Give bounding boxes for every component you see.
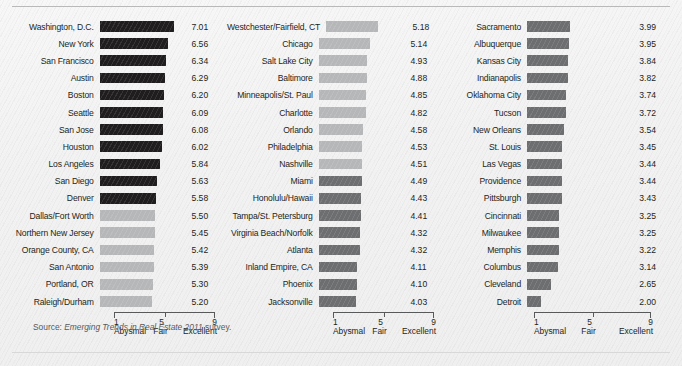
bar-value-label: 4.32 <box>403 245 443 255</box>
bar-row: Houston6.02 <box>8 138 224 155</box>
bar-row: Phoenix4.10 <box>227 276 443 293</box>
chart-panel-0: Washington, D.C.7.01New York6.56San Fran… <box>8 18 224 340</box>
bar <box>319 210 361 221</box>
bar-category-label: San Jose <box>8 125 100 135</box>
bar-row: Raleigh/Durham5.20 <box>8 293 224 310</box>
bar <box>100 55 166 66</box>
bar-track <box>100 18 185 35</box>
bar-category-label: Albuquerque <box>446 39 527 49</box>
bar-category-label: New York <box>8 39 100 49</box>
bar <box>319 193 361 204</box>
bar-row: Dallas/Fort Worth5.50 <box>8 207 224 224</box>
chart-figure: Washington, D.C.7.01New York6.56San Fran… <box>0 0 682 366</box>
bar-row: Virginia Beach/Norfolk4.32 <box>227 224 443 241</box>
bar-category-label: Detroit <box>446 297 527 307</box>
bar-row: St. Louis3.45 <box>446 138 674 155</box>
bar-row: Oklahoma City3.74 <box>446 87 674 104</box>
bar-value-label: 5.58 <box>184 193 224 203</box>
bar-value-label: 3.54 <box>632 125 674 135</box>
bar <box>527 38 569 49</box>
bar-value-label: 3.82 <box>632 73 674 83</box>
bar-value-label: 4.32 <box>403 228 443 238</box>
bar-track <box>527 173 632 190</box>
bar-value-label: 3.99 <box>632 22 674 32</box>
axis-tick-words: Abysmal Fair Excellent <box>534 327 649 336</box>
bar-track <box>319 259 404 276</box>
bar-track <box>326 18 405 35</box>
bar-row: Seattle6.09 <box>8 104 224 121</box>
axis-tick-word: Abysmal <box>333 327 365 336</box>
bar-value-label: 6.29 <box>184 73 224 83</box>
bar-category-label: Seattle <box>8 108 100 118</box>
bar-track <box>527 224 632 241</box>
bar-track <box>100 87 185 104</box>
bar-row: Inland Empire, CA4.11 <box>227 259 443 276</box>
bar-value-label: 3.72 <box>632 108 674 118</box>
bar-category-label: Dallas/Fort Worth <box>8 211 100 221</box>
axis-1: 1 5 9 Abysmal Fair Excellent <box>227 312 443 340</box>
bar-category-label: Phoenix <box>227 279 319 289</box>
bar <box>100 245 155 256</box>
bar-track <box>100 259 185 276</box>
bar-track <box>527 207 632 224</box>
bar-row: Boston6.20 <box>8 87 224 104</box>
axis-2: 1 5 9 Abysmal Fair Excellent <box>446 312 674 340</box>
bar-row: Miami4.49 <box>227 173 443 190</box>
bar <box>319 124 363 135</box>
bar-value-label: 6.08 <box>184 125 224 135</box>
bar-category-label: Inland Empire, CA <box>227 262 319 272</box>
bar-value-label: 3.74 <box>632 90 674 100</box>
bar-row: Orlando4.58 <box>227 121 443 138</box>
bar <box>527 176 562 187</box>
axis-tick-words: Abysmal Fair Excellent <box>333 327 432 336</box>
bar-value-label: 5.30 <box>184 279 224 289</box>
bar-row: Cincinnati3.25 <box>446 207 674 224</box>
axis-tick-word: Excellent <box>402 327 436 336</box>
bar <box>100 262 154 273</box>
bar-row: New Orleans3.54 <box>446 121 674 138</box>
bar-rows-1: Westchester/Fairfield, CT5.18Chicago5.14… <box>227 18 443 310</box>
source-suffix: survey. <box>203 322 232 332</box>
chart-panel-2: Sacramento3.99Albuquerque3.95Kansas City… <box>446 18 674 340</box>
bar-track <box>527 104 632 121</box>
bar-track <box>527 241 632 258</box>
bar-track <box>100 293 185 310</box>
bar-value-label: 5.14 <box>403 39 443 49</box>
bar-value-label: 7.01 <box>184 22 224 32</box>
bar-row: Cleveland2.65 <box>446 276 674 293</box>
bar-category-label: Milwaukee <box>446 228 527 238</box>
bar-row: Tucson3.72 <box>446 104 674 121</box>
bar-track <box>319 52 404 69</box>
bar-category-label: Providence <box>446 176 527 186</box>
bar <box>319 296 356 307</box>
bar-track <box>100 52 185 69</box>
bar <box>319 73 367 84</box>
bar-track <box>100 173 185 190</box>
bar-track <box>527 156 632 173</box>
source-title: Emerging Trends in Real Estate 2011 <box>64 322 202 332</box>
bar <box>319 90 367 101</box>
bar <box>326 21 378 32</box>
bar-track <box>527 259 632 276</box>
bar-value-label: 3.25 <box>632 211 674 221</box>
bar-value-label: 4.41 <box>403 211 443 221</box>
bar-category-label: Minneapolis/St. Paul <box>227 90 319 100</box>
bar-track <box>527 35 632 52</box>
bar-row: Austin6.29 <box>8 70 224 87</box>
bar-value-label: 3.45 <box>632 142 674 152</box>
bar-row: Sacramento3.99 <box>446 18 674 35</box>
bar-row: Kansas City3.84 <box>446 52 674 69</box>
bar <box>319 107 366 118</box>
bar-value-label: 4.82 <box>403 108 443 118</box>
bar <box>100 141 162 152</box>
bar-row: Philadelphia4.53 <box>227 138 443 155</box>
bar <box>100 279 153 290</box>
bar-row: Washington, D.C.7.01 <box>8 18 224 35</box>
bar-row: San Diego5.63 <box>8 173 224 190</box>
bar-category-label: Jacksonville <box>227 297 319 307</box>
bar <box>100 90 164 101</box>
bar-track <box>527 70 632 87</box>
bar-row: Milwaukee3.25 <box>446 224 674 241</box>
bar <box>100 227 155 238</box>
bar-row: San Jose6.08 <box>8 121 224 138</box>
